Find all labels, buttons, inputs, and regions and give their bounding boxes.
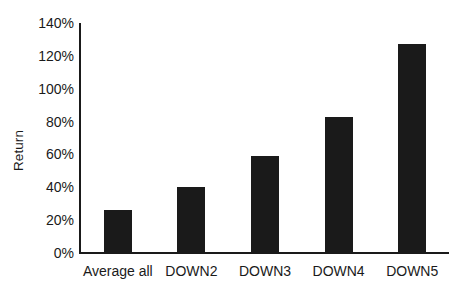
y-axis-tick-label: 120%: [18, 49, 74, 63]
bar: [251, 156, 279, 253]
y-axis-tick-label: 60%: [18, 147, 74, 161]
x-axis-tick-label: DOWN2: [155, 262, 229, 280]
bar-chart: Return 0%20%40%60%80%100%120%140% Averag…: [0, 0, 459, 306]
bar: [325, 117, 353, 253]
y-axis-tick-label: 20%: [18, 213, 74, 227]
y-axis-tick-label: 80%: [18, 115, 74, 129]
y-axis-tick-label: 140%: [18, 16, 74, 30]
bar: [398, 44, 426, 253]
y-axis-tick-label: 40%: [18, 180, 74, 194]
bar: [104, 210, 132, 253]
y-axis-tick-labels: 0%20%40%60%80%100%120%140%: [18, 0, 74, 306]
bar: [177, 187, 205, 253]
y-axis-tick-label: 100%: [18, 82, 74, 96]
plot-area: [81, 23, 449, 253]
x-axis-tick-label: Average all: [81, 262, 155, 280]
x-axis-tick-label: DOWN3: [228, 262, 302, 280]
y-axis-tick-label: 0%: [18, 246, 74, 260]
x-axis-tick-label: DOWN5: [375, 262, 449, 280]
x-axis-tick-labels: Average allDOWN2DOWN3DOWN4DOWN5: [81, 262, 449, 286]
x-axis-tick-label: DOWN4: [302, 262, 376, 280]
